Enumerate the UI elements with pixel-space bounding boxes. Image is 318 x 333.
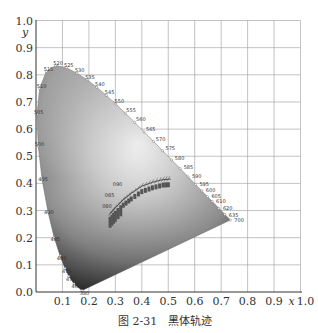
wavelength-marker xyxy=(211,200,213,202)
wavelength-label: 595 xyxy=(199,181,209,187)
temperature-label-box xyxy=(130,196,133,201)
x-axis-label: x xyxy=(289,295,296,308)
wavelength-marker xyxy=(170,159,172,161)
x-tick-label: 0.3 xyxy=(107,295,125,308)
y-tick-label: 0.2 xyxy=(16,232,34,245)
y-tick-label: 0.3 xyxy=(16,205,34,218)
wavelength-marker xyxy=(206,195,208,197)
x-tick-label: 0.1 xyxy=(54,295,72,308)
wavelength-label: 700 xyxy=(234,217,244,223)
wavelength-label: 580 xyxy=(175,155,185,161)
temperature-label-box xyxy=(114,211,117,222)
temperature-label-box xyxy=(151,185,154,190)
temperature-label-box xyxy=(117,208,120,219)
x-tick-label: 1.0 xyxy=(297,295,315,308)
wavelength-marker xyxy=(218,207,220,209)
temperature-label-box xyxy=(137,191,140,196)
y-tick-labels: 0.00.10.20.30.40.50.60.70.80.91.0 xyxy=(16,15,34,300)
wavelength-label: 470 xyxy=(66,276,76,282)
wavelength-label: 520 xyxy=(53,60,63,66)
y-tick-label: 0.5 xyxy=(16,150,34,163)
wavelength-label: 525 xyxy=(64,62,74,68)
temperature-label-box xyxy=(147,187,150,192)
wavelength-marker xyxy=(162,150,164,152)
wavelength-label: 545 xyxy=(105,89,115,95)
y-tick-label: 0.1 xyxy=(16,259,34,272)
wavelength-label: 480 xyxy=(57,255,67,261)
cie-chromaticity-chart: 090085080 380460470475480485490495500505… xyxy=(0,0,318,333)
wavelength-label: 460 xyxy=(72,283,82,289)
x-tick-label: 0.7 xyxy=(212,295,230,308)
y-axis-label: y xyxy=(21,26,29,39)
wavelength-label: 585 xyxy=(184,164,194,170)
wavelength-label: 560 xyxy=(136,116,146,122)
x-tick-label: 0.8 xyxy=(239,295,257,308)
wavelength-label: 530 xyxy=(75,67,85,73)
wavelength-label: 565 xyxy=(146,126,156,132)
x-tick-label: 0.5 xyxy=(160,295,178,308)
temperature-label-box xyxy=(164,182,167,187)
x-tick-label: 0.9 xyxy=(265,295,283,308)
wavelength-label: 475 xyxy=(62,268,72,274)
x-tick-label: 0.6 xyxy=(186,295,204,308)
figure-number: 图 2-31 xyxy=(118,315,157,328)
y-tick-label: 0.8 xyxy=(16,69,34,82)
planckian-label: 080 xyxy=(102,203,112,209)
wavelength-label: 490 xyxy=(44,209,54,215)
wavelength-label: 590 xyxy=(192,173,202,179)
figure-caption: 黑体轨迹 xyxy=(168,314,212,328)
wavelength-label: 505 xyxy=(34,109,44,115)
wavelength-label: 570 xyxy=(156,136,166,142)
wavelength-marker xyxy=(152,140,154,142)
temperature-label-box xyxy=(161,183,164,188)
temperature-label-box xyxy=(154,184,157,189)
wavelength-label: 575 xyxy=(165,145,175,151)
wavelength-label: 540 xyxy=(95,81,105,87)
temperature-label-box xyxy=(144,188,147,193)
temperature-label-box xyxy=(158,183,161,188)
planckian-label: 090 xyxy=(113,181,123,187)
wavelength-marker xyxy=(224,213,226,215)
wavelength-marker xyxy=(143,131,145,133)
wavelength-label: 550 xyxy=(115,98,125,104)
wavelength-marker xyxy=(179,168,181,170)
y-tick-label: 0.9 xyxy=(16,42,34,55)
y-tick-label: 0.6 xyxy=(16,123,34,136)
temperature-label-box xyxy=(133,194,136,199)
planckian-label: 085 xyxy=(105,192,115,198)
wavelength-label: 535 xyxy=(85,74,95,80)
wavelength-label: 510 xyxy=(37,83,47,89)
temperature-label-box xyxy=(140,189,143,194)
wavelength-label: 495 xyxy=(38,176,48,182)
wavelength-marker xyxy=(229,219,231,221)
temperature-label-box xyxy=(167,182,170,187)
wavelength-label: 515 xyxy=(44,66,54,72)
x-tick-label: 0.2 xyxy=(80,295,98,308)
y-tick-label: 0.7 xyxy=(16,96,34,109)
wavelength-label: 620 xyxy=(223,205,233,211)
x-tick-labels: 0.10.20.30.40.50.60.70.80.9x1.0 xyxy=(54,295,315,308)
wavelength-marker xyxy=(194,183,196,185)
wavelength-label: 610 xyxy=(216,198,226,204)
y-tick-label: 0.0 xyxy=(16,286,34,299)
temperature-label-box xyxy=(124,201,127,206)
temperature-label-box xyxy=(122,203,125,208)
x-tick-label: 0.4 xyxy=(133,295,151,308)
wavelength-marker xyxy=(201,190,203,192)
wavelength-marker xyxy=(187,176,189,178)
wavelength-label: 485 xyxy=(50,236,60,242)
y-tick-label: 0.4 xyxy=(16,177,34,190)
wavelength-label: 555 xyxy=(126,107,136,113)
